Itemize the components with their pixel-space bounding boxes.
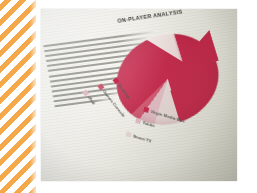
- photograph-of-report-page: ON-PLAYER ANALYSIS: [41, 9, 237, 181]
- printed-page: ON-PLAYER ANALYSIS: [41, 9, 237, 181]
- slide-canvas: ON-PLAYER ANALYSIS: [0, 0, 257, 193]
- stripe-fade-overlay: [30, 0, 40, 193]
- paper-shading: [41, 9, 237, 181]
